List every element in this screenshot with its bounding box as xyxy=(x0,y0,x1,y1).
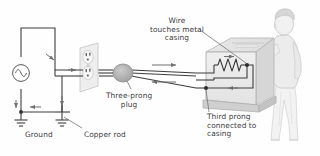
ac-source-symbol xyxy=(13,65,30,82)
current-arrows-supply xyxy=(16,54,76,108)
label-copper-rod: Copper rod xyxy=(84,131,126,140)
label-wire-touches-casing: Wire touches metal casing xyxy=(150,17,204,43)
label-ground: Ground xyxy=(25,131,53,140)
cord-current-arrows xyxy=(152,65,176,82)
casing-ground-node xyxy=(204,86,208,90)
label-three-prong-plug: Three-prong plug xyxy=(106,92,152,109)
appliance-cord xyxy=(131,70,196,88)
outlet-socket-upper xyxy=(83,50,93,63)
outlet-socket-lower xyxy=(83,66,93,79)
label-third-prong: Third prong connected to casing xyxy=(207,113,256,139)
plug-prongs xyxy=(97,70,113,76)
earth-ground-symbol-left xyxy=(15,112,28,126)
wall-outlet-duplex xyxy=(80,43,98,92)
earth-ground-symbol-right xyxy=(56,105,69,126)
three-prong-plug-body xyxy=(113,64,133,82)
metal-cased-appliance xyxy=(203,38,276,112)
figure-canvas: Ground Copper rod Three-prong plug Wire … xyxy=(0,0,320,156)
fault-contact-node xyxy=(245,63,249,67)
